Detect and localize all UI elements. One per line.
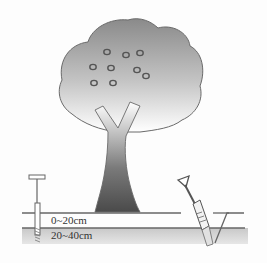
- soil-sampling-diagram: 0~20cm 20~40cm: [0, 0, 267, 263]
- layer-label-bottom: 20~40cm: [51, 230, 92, 241]
- layer-label-top: 0~20cm: [51, 215, 87, 226]
- diagram-graphic: [0, 0, 267, 263]
